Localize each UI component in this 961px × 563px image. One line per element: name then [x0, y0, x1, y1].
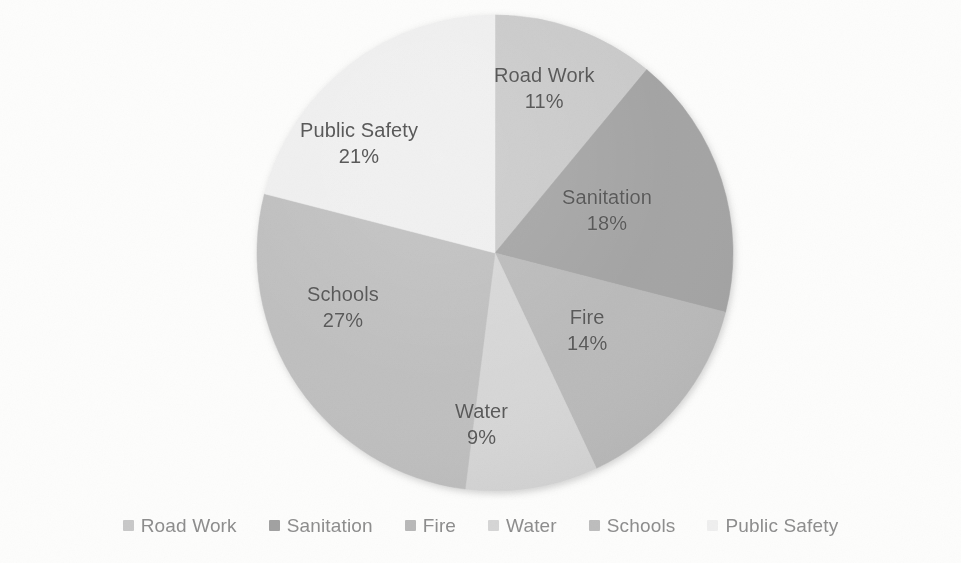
legend-swatch-icon-road-work [123, 520, 134, 531]
legend-label: Water [506, 516, 557, 535]
legend-label: Fire [423, 516, 456, 535]
legend-label: Road Work [141, 516, 237, 535]
legend-item-public-safety[interactable]: Public Safety [707, 516, 838, 535]
chart-legend: Road WorkSanitationFireWaterSchoolsPubli… [0, 504, 961, 546]
legend-item-water[interactable]: Water [488, 516, 557, 535]
legend-swatch-icon-fire [405, 520, 416, 531]
legend-swatch-icon-sanitation [269, 520, 280, 531]
legend-label: Sanitation [287, 516, 373, 535]
pie-chart-svg [0, 0, 961, 500]
chart-plot-area: Road Work11%Sanitation18%Fire14%Water9%S… [0, 0, 961, 500]
legend-swatch-icon-water [488, 520, 499, 531]
pie-chart-page: Road Work11%Sanitation18%Fire14%Water9%S… [0, 0, 961, 563]
legend-item-schools[interactable]: Schools [589, 516, 676, 535]
pie-slices-group [257, 15, 733, 491]
legend-item-road-work[interactable]: Road Work [123, 516, 237, 535]
legend-item-sanitation[interactable]: Sanitation [269, 516, 373, 535]
legend-label: Schools [607, 516, 676, 535]
legend-item-fire[interactable]: Fire [405, 516, 456, 535]
legend-swatch-icon-public-safety [707, 520, 718, 531]
legend-swatch-icon-schools [589, 520, 600, 531]
legend-label: Public Safety [725, 516, 838, 535]
